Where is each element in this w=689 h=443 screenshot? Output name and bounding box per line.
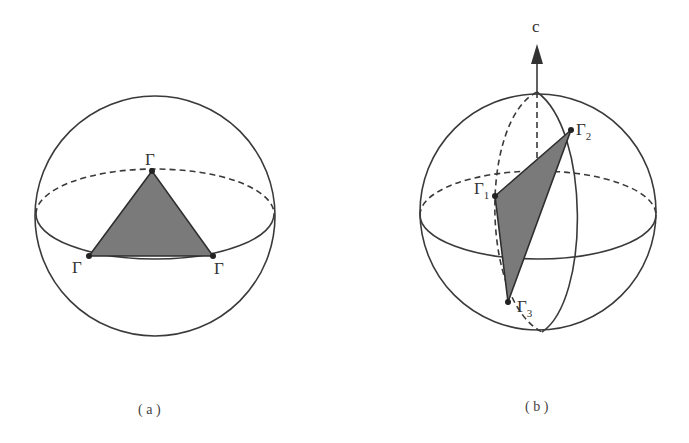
c-axis-label: c (532, 17, 540, 36)
figure-canvas: Γ Γ Γ c Γ1 Γ2 Γ3 ( a ) ( b ) (0, 0, 689, 443)
vertex-point-left-a (86, 253, 92, 259)
shaded-triangle-a (89, 171, 213, 256)
vertex-point-2-b (568, 127, 574, 133)
panel-b: c Γ1 Γ2 Γ3 (420, 17, 656, 332)
caption-b: ( b ) (525, 399, 549, 415)
vertex-label-1-b: Γ1 (474, 179, 489, 201)
vertex-label-top-a: Γ (145, 150, 155, 169)
vertex-label-left-a: Γ (72, 258, 82, 277)
vertex-point-1-b (492, 193, 498, 199)
vertex-point-3-b (505, 299, 511, 305)
vertex-label-2-b: Γ2 (576, 120, 591, 142)
c-axis-arrowhead (531, 44, 543, 64)
vertex-label-3-b: Γ3 (517, 297, 533, 319)
caption-a: ( a ) (138, 402, 161, 418)
vertex-label-right-a: Γ (214, 259, 224, 278)
shaded-triangle-b (495, 130, 571, 302)
panel-a: Γ Γ Γ (35, 96, 275, 336)
